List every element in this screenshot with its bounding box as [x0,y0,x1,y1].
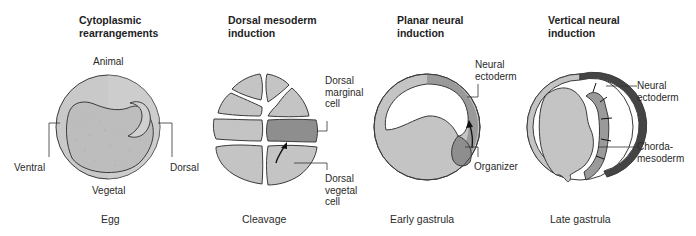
label-line: ectoderm [475,71,517,83]
label-line: vegetal [325,185,357,197]
stage-egg: Egg [101,213,120,225]
label-line: cell [325,98,363,110]
label-line: Neural [637,80,679,92]
label-line: Dorsal [325,173,357,185]
panel-4-title: Vertical neural induction [548,14,620,39]
label-line: mesoderm [637,153,684,165]
panel-1-title-line1: Cytoplasmic [79,14,158,27]
cleavage-diagram [213,74,327,185]
stage-early-gastrula: Early gastrula [390,213,454,225]
label-ventral: Ventral [14,162,45,174]
panel-2-title-line2: induction [228,27,317,40]
label-organizer: Organizer [474,161,518,173]
label-neural-ectoderm-late: Neural ectoderm [637,80,679,103]
label-animal: Animal [93,56,124,68]
label-line: Dorsal [325,75,363,87]
label-line: marginal [325,87,363,99]
stage-late-gastrula: Late gastrula [550,213,611,225]
label-line: cell [325,196,357,208]
label-neural-ectoderm-early: Neural ectoderm [475,59,517,82]
label-vegetal: Vegetal [92,185,125,197]
label-line: Chorda- [637,141,684,153]
late-gastrula-diagram [527,72,647,181]
label-chordamesoderm: Chorda- mesoderm [637,141,684,164]
panel-3-title-line1: Planar neural [397,14,464,27]
label-line: ectoderm [637,92,679,104]
label-dorsal-vegetal-cell: Dorsal vegetal cell [325,173,357,208]
panel-4-title-line1: Vertical neural [548,14,620,27]
egg-diagram [49,75,172,179]
panel-3-title: Planar neural induction [397,14,464,39]
panel-3-title-line2: induction [397,27,464,40]
panel-2-title: Dorsal mesoderm induction [228,14,317,39]
panel-4-title-line2: induction [548,27,620,40]
panel-2-title-line1: Dorsal mesoderm [228,14,317,27]
label-line: Neural [475,59,517,71]
early-gastrula-diagram [374,74,480,180]
label-dorsal-marginal-cell: Dorsal marginal cell [325,75,363,110]
label-dorsal: Dorsal [170,162,199,174]
panel-1-title-line2: rearrangements [79,27,158,40]
panel-1-title: Cytoplasmic rearrangements [79,14,158,39]
stage-cleavage: Cleavage [242,213,286,225]
